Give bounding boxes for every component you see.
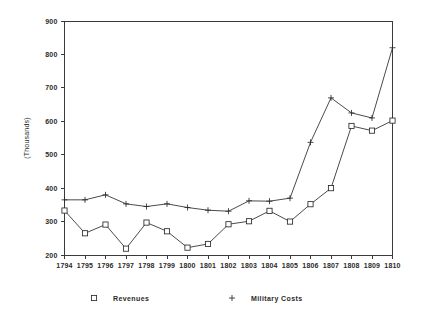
x-tick-label: 1796 [97, 262, 113, 269]
data-point-marker [308, 202, 313, 207]
data-point-marker [144, 220, 149, 225]
data-point-marker [328, 186, 333, 191]
x-tick-label: 1800 [179, 262, 195, 269]
y-tick-label: 600 [45, 118, 57, 125]
data-point-marker [82, 231, 87, 236]
x-tick-label: 1803 [241, 262, 257, 269]
x-tick-label: 1807 [323, 262, 339, 269]
x-tick-label: 1797 [118, 262, 134, 269]
x-tick-label: 1799 [159, 262, 175, 269]
data-point-marker [349, 123, 354, 128]
y-axis-title-text: (Thousands) [23, 117, 31, 159]
series-line [65, 121, 393, 249]
data-point-marker [267, 208, 272, 213]
x-tick-label: 1804 [261, 262, 277, 269]
legend-square-icon [91, 295, 96, 300]
data-point-marker [205, 241, 210, 246]
series-revenues [62, 118, 395, 251]
data-point-marker [226, 222, 231, 227]
y-tick-label: 300 [45, 218, 57, 225]
y-tick-label: 900 [45, 18, 57, 25]
y-tick-label: 500 [45, 151, 57, 158]
x-tick-label: 1801 [200, 262, 216, 269]
y-tick-label: 400 [45, 185, 57, 192]
series-military-costs [62, 45, 396, 214]
data-point-marker [287, 219, 292, 224]
y-tick-label: 800 [45, 51, 57, 58]
x-tick-label: 1805 [282, 262, 298, 269]
x-axis-ticks: 1794179517961797179817991800180118021803… [56, 255, 400, 269]
x-tick-label: 1795 [77, 262, 93, 269]
chart-axes [65, 21, 393, 255]
line-chart: (Thousands) 200300400500600700800900 179… [0, 0, 445, 326]
data-point-marker [164, 229, 169, 234]
x-tick-label: 1806 [302, 262, 318, 269]
y-tick-label: 700 [45, 84, 57, 91]
x-tick-label: 1809 [364, 262, 380, 269]
data-point-marker [103, 222, 108, 227]
data-point-marker [185, 245, 190, 250]
data-point-marker [62, 208, 67, 213]
x-tick-label: 1802 [220, 262, 236, 269]
data-series [62, 45, 396, 252]
series-line [65, 48, 393, 211]
x-tick-label: 1810 [384, 262, 400, 269]
x-tick-label: 1798 [138, 262, 154, 269]
data-point-marker [369, 128, 374, 133]
data-point-marker [246, 219, 251, 224]
x-tick-label: 1794 [56, 262, 72, 269]
chart-legend: RevenuesMilitary Costs [91, 295, 302, 303]
y-tick-label: 200 [45, 252, 57, 259]
legend-label: Military Costs [251, 295, 303, 303]
legend-item-revenues[interactable]: Revenues [91, 295, 149, 302]
y-axis-title: (Thousands) [23, 117, 31, 159]
y-axis-ticks: 200300400500600700800900 [45, 18, 64, 259]
data-point-marker [390, 118, 395, 123]
legend-item-military-costs[interactable]: Military Costs [229, 295, 303, 303]
data-point-marker [123, 246, 128, 251]
x-tick-label: 1808 [343, 262, 359, 269]
chart-container: (Thousands) 200300400500600700800900 179… [0, 0, 445, 326]
legend-label: Revenues [113, 295, 149, 302]
